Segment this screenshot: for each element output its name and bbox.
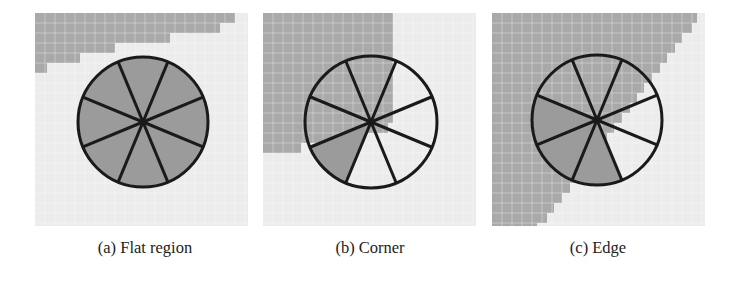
panel-b [263,13,476,226]
panel-a [35,13,248,226]
caption-b: (b) Corner [335,238,404,258]
caption-c: (c) Edge [570,238,626,258]
caption-a: (a) Flat region [98,238,192,258]
panel-c [492,13,705,226]
